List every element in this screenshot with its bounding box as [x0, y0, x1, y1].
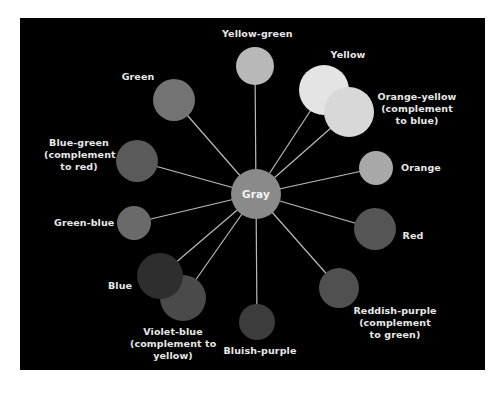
circle-bluish-purple — [239, 304, 275, 340]
circle-orange-yellow — [324, 87, 374, 137]
label-yellow-green: Yellow-green — [222, 28, 292, 40]
label-orange-yellow: Orange-yellow (complement to blue) — [374, 91, 460, 127]
label-green-blue: Green-blue — [54, 217, 114, 229]
circle-yellow-green — [236, 47, 274, 85]
circle-reddish-purple — [319, 268, 359, 308]
label-gray: Gray — [236, 188, 276, 200]
circle-green-blue — [117, 206, 151, 240]
label-blue-green: Blue-green (complement to red) — [44, 137, 114, 173]
label-reddish-purple: Reddish-purple (complement to green) — [349, 305, 441, 341]
circle-green — [153, 79, 195, 121]
label-bluish-purple: Bluish-purple — [220, 345, 300, 357]
label-yellow: Yellow — [328, 49, 368, 61]
circle-orange — [359, 151, 393, 185]
circle-blue-green — [116, 140, 158, 182]
label-orange: Orange — [396, 162, 446, 174]
label-violet-blue: Violet-blue (complement to yellow) — [130, 326, 216, 362]
label-red: Red — [400, 230, 426, 242]
circle-red — [354, 208, 396, 250]
label-green: Green — [118, 71, 158, 83]
label-blue: Blue — [105, 280, 135, 292]
circle-blue — [137, 253, 183, 299]
